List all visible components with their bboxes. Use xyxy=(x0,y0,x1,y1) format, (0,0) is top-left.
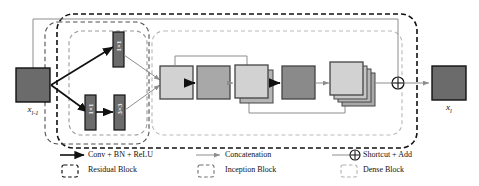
dense-layer-4 xyxy=(282,66,315,99)
input-block xyxy=(16,68,50,102)
shortcut-add-node xyxy=(392,77,404,89)
legend-label-inception: Inception Block xyxy=(225,165,276,174)
output-sub: l xyxy=(450,107,452,114)
figure-canvas: 1×1 1×1 3×3 xl-1 xl Conv + BN + ReLU Res… xyxy=(0,0,479,186)
legend-plus-circle-icon xyxy=(350,150,360,160)
legend-label-shortcut: Shortcut + Add xyxy=(363,150,412,159)
inception-block-boundary xyxy=(69,31,147,135)
arrow-input-to-top-1x1 xyxy=(51,47,113,85)
output-block xyxy=(432,66,466,100)
inception-op-top-1x1-label: 1×1 xyxy=(115,34,123,58)
legend-dashed-box-inception-icon xyxy=(198,165,214,177)
output-block-label: xl xyxy=(432,102,466,114)
input-block-label: xl-1 xyxy=(16,104,50,116)
concat-bottom-branch xyxy=(125,85,160,110)
inception-op-bottom-1x1-label: 1×1 xyxy=(87,97,95,121)
dense-layer-2 xyxy=(197,66,230,99)
inception-op-bottom-3x3-label: 3×3 xyxy=(116,97,124,121)
input-sub: l-1 xyxy=(31,109,38,116)
dense-layer-5 xyxy=(330,62,363,95)
dense-layer-3 xyxy=(235,65,268,98)
dense-layer-1 xyxy=(160,66,193,99)
legend-label-conv: Conv + BN + ReLU xyxy=(88,150,153,159)
legend-dashed-box-residual-icon xyxy=(62,165,78,177)
legend-label-concatenation: Concatenation xyxy=(225,150,271,159)
legend-label-residual: Residual Block xyxy=(88,165,137,174)
concat-top-branch xyxy=(124,55,160,80)
legend-label-dense: Dense Block xyxy=(363,165,404,174)
residual-block-boundary xyxy=(45,22,149,144)
legend-dashed-box-dense-icon xyxy=(341,165,357,177)
